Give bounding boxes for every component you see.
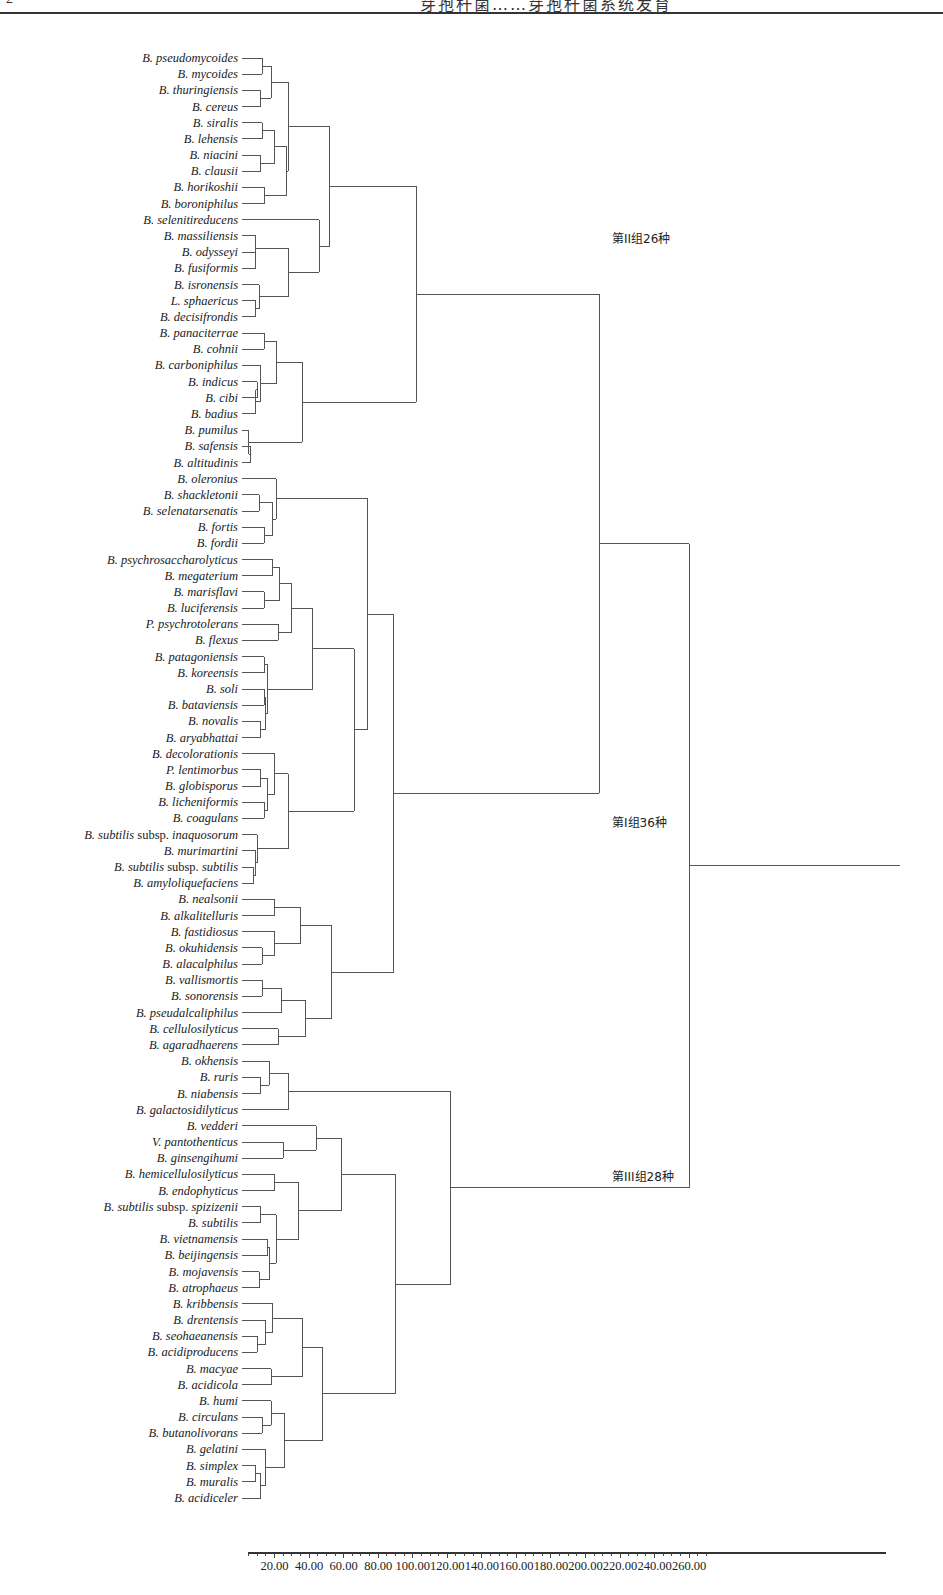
- tick-label: 100.00: [396, 1559, 430, 1573]
- leaf-labels: B. pseudomycoidesB. mycoidesB. thuringie…: [84, 51, 238, 1505]
- leaf-label: B. butanolivorans: [148, 1426, 238, 1440]
- leaf-label: B. vallismortis: [165, 973, 238, 987]
- leaf-label: B. flexus: [195, 633, 238, 647]
- leaf-label: B. decisifrondis: [160, 310, 238, 324]
- leaf-label: B. siralis: [193, 116, 238, 130]
- leaf-label: B. decolorationis: [152, 747, 238, 761]
- leaf-label: B. atrophaeus: [168, 1281, 238, 1295]
- leaf-label: B. altitudinis: [173, 456, 238, 470]
- leaf-label: B. koreensis: [177, 666, 238, 680]
- leaf-label: B. aryabhattai: [166, 731, 239, 745]
- leaf-label: B. alacalphilus: [162, 957, 238, 971]
- tick-label: 180.00: [534, 1559, 568, 1573]
- leaf-label: B. licheniformis: [158, 795, 238, 809]
- leaf-label: B. cereus: [192, 100, 238, 114]
- leaf-label: B. isronensis: [174, 278, 238, 292]
- leaf-label: B. pseudalcaliphilus: [136, 1006, 238, 1020]
- dendrogram-branches: [242, 58, 900, 1498]
- leaf-label: B. patagoniensis: [155, 650, 238, 664]
- leaf-label: B. subtilis subsp. spizizenii: [104, 1200, 239, 1214]
- group-labels: 第II组26种第I组36种第III组28种: [612, 232, 674, 1184]
- tick-label: 220.00: [603, 1559, 637, 1573]
- leaf-label: B. okhensis: [181, 1054, 238, 1068]
- leaf-label: B. humi: [199, 1394, 238, 1408]
- leaf-label: B. globisporus: [165, 779, 238, 793]
- leaf-label: B. muralis: [186, 1475, 238, 1489]
- leaf-label: B. mojavensis: [169, 1265, 239, 1279]
- leaf-label: B. acidiceler: [174, 1491, 238, 1505]
- leaf-label: B. megaterium: [164, 569, 238, 583]
- x-axis: 20.0040.0060.0080.00100.00120.00140.0016…: [248, 1553, 886, 1573]
- leaf-label: B. indicus: [188, 375, 238, 389]
- tick-label: 120.00: [430, 1559, 464, 1573]
- tick-label: 260.00: [672, 1559, 706, 1573]
- leaf-label: B. shackletonii: [164, 488, 239, 502]
- leaf-label: B. gelatini: [186, 1442, 239, 1456]
- leaf-label: B. sonorensis: [171, 989, 238, 1003]
- leaf-label: B. ginsengihumi: [157, 1151, 239, 1165]
- leaf-label: B. cohnii: [193, 342, 239, 356]
- leaf-label: B. safensis: [185, 439, 239, 453]
- leaf-label: B. oleronius: [177, 472, 238, 486]
- leaf-label: B. selenitireducens: [143, 213, 238, 227]
- leaf-label: B. fastidiosus: [171, 925, 239, 939]
- leaf-label: B. carboniphilus: [155, 358, 238, 372]
- leaf-label: B. kribbensis: [173, 1297, 238, 1311]
- tick-label: 240.00: [637, 1559, 671, 1573]
- leaf-label: B. alkalitelluris: [160, 909, 238, 923]
- leaf-label: B. massiliensis: [164, 229, 238, 243]
- leaf-label: B. niabensis: [177, 1087, 238, 1101]
- leaf-label: B. pseudomycoides: [142, 51, 238, 65]
- leaf-label: B. boroniphilus: [161, 197, 238, 211]
- group-label: 第III组28种: [612, 1170, 674, 1184]
- leaf-label: B. fusiformis: [174, 261, 238, 275]
- leaf-label: B. nealsonii: [178, 892, 238, 906]
- leaf-label: B. fortis: [198, 520, 238, 534]
- leaf-label: B. seohaeanensis: [152, 1329, 238, 1343]
- leaf-label: B. lehensis: [184, 132, 238, 146]
- leaf-label: B. drentensis: [173, 1313, 238, 1327]
- leaf-label: B. thuringiensis: [159, 83, 238, 97]
- tick-label: 80.00: [364, 1559, 392, 1573]
- tick-label: 40.00: [295, 1559, 323, 1573]
- leaf-label: B. mycoides: [178, 67, 239, 81]
- leaf-label: B. galactosidilyticus: [136, 1103, 238, 1117]
- leaf-label: B. circulans: [178, 1410, 238, 1424]
- leaf-label: B. selenatarsenatis: [143, 504, 238, 518]
- leaf-label: B. amyloliquefaciens: [133, 876, 238, 890]
- tick-label: 60.00: [330, 1559, 358, 1573]
- leaf-label: B. novalis: [188, 714, 238, 728]
- leaf-label: P. lentimorbus: [165, 763, 238, 777]
- leaf-label: B. vedderi: [187, 1119, 239, 1133]
- leaf-label: B. acidicola: [178, 1378, 238, 1392]
- leaf-label: B. panaciterrae: [160, 326, 239, 340]
- leaf-label: B. subtilis subsp. inaquosorum: [84, 828, 238, 842]
- leaf-label: B. subtilis: [188, 1216, 238, 1230]
- leaf-label: B. niacini: [189, 148, 238, 162]
- leaf-label: B. simplex: [186, 1459, 239, 1473]
- leaf-label: P. psychrotolerans: [145, 617, 238, 631]
- tick-label: 20.00: [260, 1559, 288, 1573]
- leaf-label: B. soli: [206, 682, 238, 696]
- leaf-label: B. pumilus: [185, 423, 239, 437]
- leaf-label: B. marisflavi: [173, 585, 238, 599]
- tick-label: 140.00: [465, 1559, 499, 1573]
- leaf-label: B. subtilis subsp. subtilis: [114, 860, 238, 874]
- leaf-label: B. badius: [191, 407, 238, 421]
- leaf-label: B. macyae: [186, 1362, 239, 1376]
- leaf-label: B. coagulans: [173, 811, 238, 825]
- tick-label: 200.00: [568, 1559, 602, 1573]
- leaf-label: B. murimartini: [164, 844, 239, 858]
- leaf-label: B. endophyticus: [158, 1184, 238, 1198]
- leaf-label: B. cibi: [205, 391, 238, 405]
- leaf-label: B. okuhidensis: [165, 941, 238, 955]
- tick-label: 160.00: [499, 1559, 533, 1573]
- leaf-label: B. psychrosaccharolyticus: [107, 553, 238, 567]
- leaf-label: B. beijingensis: [164, 1248, 238, 1262]
- leaf-label: B. horikoshii: [173, 180, 238, 194]
- leaf-label: B. cellulosilyticus: [149, 1022, 238, 1036]
- leaf-label: B. odysseyi: [182, 245, 239, 259]
- group-label: 第I组36种: [612, 816, 667, 830]
- dendrogram-chart: B. pseudomycoidesB. mycoidesB. thuringie…: [0, 0, 943, 1595]
- leaf-label: B. vietnamensis: [160, 1232, 239, 1246]
